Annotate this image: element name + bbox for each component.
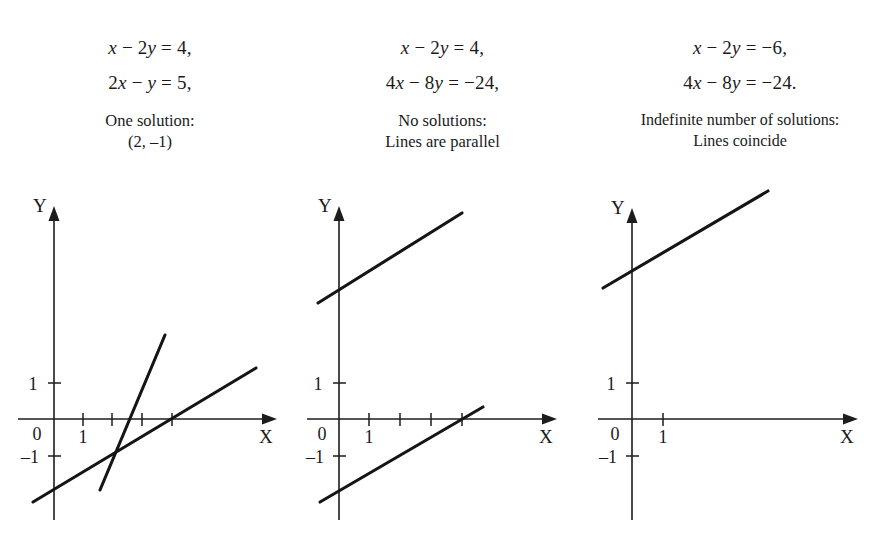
y-axis-arrow-icon xyxy=(627,208,638,223)
y-axis xyxy=(334,206,345,520)
y-axis-label: Y xyxy=(611,197,625,218)
equation-3-line-1: x − 2y = −6, xyxy=(585,38,895,58)
y-tick-label-1: 1 xyxy=(29,374,38,394)
note-2-line-1: No solutions: xyxy=(295,110,590,131)
y-axis xyxy=(627,208,638,520)
y-axis xyxy=(49,206,60,520)
note-1-line-1: One solution: xyxy=(0,110,300,131)
note-1-line-2: (2, –1) xyxy=(0,131,300,152)
x-axis-arrow-icon xyxy=(262,414,277,425)
panel-indefinite-solutions: x − 2y = −6, 4x − 8y = −24. Indefinite n… xyxy=(585,0,895,545)
panel-no-solutions: x − 2y = 4, 4x − 8y = −24, No solutions:… xyxy=(295,0,590,545)
x-axis-label: X xyxy=(840,426,854,447)
y-axis-label: Y xyxy=(33,195,47,216)
x-axis xyxy=(598,414,858,425)
x-tick-label-1: 1 xyxy=(659,427,668,447)
x-tick-label-1: 1 xyxy=(79,427,88,447)
y-tick-label-neg1: –1 xyxy=(305,447,324,467)
note-3-line-1: Indefinite number of solutions: xyxy=(585,110,895,130)
equation-1-line-2: 2x − y = 5, xyxy=(0,73,300,93)
equation-3-line-2: 4x − 8y = −24. xyxy=(585,73,895,93)
note-2-line-2: Lines are parallel xyxy=(295,131,590,152)
y-axis-arrow-icon xyxy=(334,206,345,221)
equation-1-line-1: x − 2y = 4, xyxy=(0,38,300,58)
graph-one-solution: Y X 1 0 –1 1 xyxy=(0,185,300,545)
y-tick-label-0: 0 xyxy=(33,424,42,444)
graph-no-solutions: Y X 1 0 –1 1 xyxy=(295,185,590,545)
x-axis xyxy=(18,414,277,425)
y-tick-label-neg1: –1 xyxy=(20,447,39,467)
y-tick-label-1: 1 xyxy=(314,374,323,394)
x-axis-arrow-icon xyxy=(542,414,557,425)
plot-line-x-2y-4 xyxy=(33,368,256,502)
y-axis-arrow-icon xyxy=(49,206,60,221)
equation-2-line-2: 4x − 8y = −24, xyxy=(295,73,590,93)
x-axis xyxy=(307,414,557,425)
equation-2-line-1: x − 2y = 4, xyxy=(295,38,590,58)
y-tick-label-1: 1 xyxy=(607,374,616,394)
x-axis-label: X xyxy=(259,426,273,447)
plot-line-2x-y-5 xyxy=(100,335,165,490)
y-axis-label: Y xyxy=(318,195,332,216)
graph-indefinite-solutions: Y X 1 0 –1 1 xyxy=(585,185,895,545)
y-tick-label-0: 0 xyxy=(611,424,620,444)
plot-line-coincident xyxy=(603,191,768,288)
figure-root: x − 2y = 4, 2x − y = 5, One solution: (2… xyxy=(0,0,895,545)
y-tick-label-0: 0 xyxy=(318,424,327,444)
panel-one-solution: x − 2y = 4, 2x − y = 5, One solution: (2… xyxy=(0,0,300,545)
x-axis-arrow-icon xyxy=(843,414,858,425)
y-tick-label-neg1: –1 xyxy=(598,447,617,467)
plot-line-x-2y-4 xyxy=(320,407,483,502)
x-tick-label-1: 1 xyxy=(365,427,374,447)
note-3-line-2: Lines coincide xyxy=(585,131,895,151)
x-axis-label: X xyxy=(539,426,553,447)
